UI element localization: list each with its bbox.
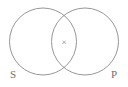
venn-diagram-figure: S P × — [0, 0, 128, 87]
set-label-s: S — [10, 68, 16, 80]
set-label-p: P — [111, 68, 117, 80]
intersection-x-mark: × — [61, 37, 66, 47]
venn-diagram-canvas: S P × — [0, 0, 128, 87]
